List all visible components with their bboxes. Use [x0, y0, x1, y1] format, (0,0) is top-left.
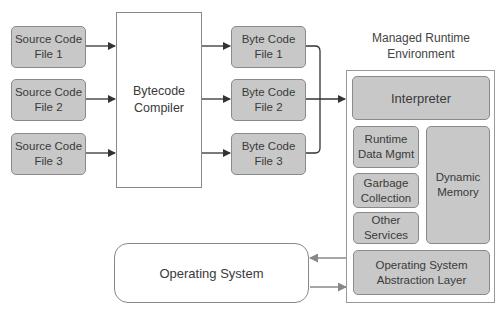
source-code-file-2: Source Code File 2 — [11, 79, 86, 121]
byte-code-file-2-label: Byte Code File 2 — [242, 85, 296, 115]
runtime-data-mgmt: Runtime Data Mgmt — [353, 126, 419, 168]
bytecode-compiler-label: Bytecode Compiler — [133, 83, 185, 117]
byte-code-file-3: Byte Code File 3 — [231, 133, 306, 175]
source-code-file-1: Source Code File 1 — [11, 26, 86, 68]
other-services: Other Services — [353, 212, 419, 244]
os-abstraction-layer-label: Operating System Abstraction Layer — [375, 258, 467, 288]
operating-system: Operating System — [114, 243, 309, 303]
garbage-collection-label: Garbage Collection — [361, 176, 412, 206]
source-code-file-3-label: Source Code File 3 — [15, 139, 82, 169]
os-abstraction-layer: Operating System Abstraction Layer — [353, 250, 490, 295]
source-code-file-3: Source Code File 3 — [11, 133, 86, 175]
source-code-file-2-label: Source Code File 2 — [15, 85, 82, 115]
operating-system-label: Operating System — [159, 266, 263, 281]
garbage-collection: Garbage Collection — [353, 173, 419, 208]
byte-code-file-1-label: Byte Code File 1 — [242, 32, 296, 62]
runtime-title: Managed Runtime Environment — [346, 30, 496, 62]
dynamic-memory-label: Dynamic Memory — [436, 170, 481, 200]
source-code-file-1-label: Source Code File 1 — [15, 32, 82, 62]
bytecode-compiler: Bytecode Compiler — [116, 12, 202, 188]
dynamic-memory: Dynamic Memory — [426, 126, 490, 244]
other-services-label: Other Services — [364, 213, 408, 243]
byte-code-file-2: Byte Code File 2 — [231, 79, 306, 121]
byte-code-file-3-label: Byte Code File 3 — [242, 139, 296, 169]
byte-code-file-1: Byte Code File 1 — [231, 26, 306, 68]
runtime-data-mgmt-label: Runtime Data Mgmt — [358, 132, 414, 162]
interpreter: Interpreter — [352, 76, 490, 120]
interpreter-label: Interpreter — [391, 91, 451, 106]
